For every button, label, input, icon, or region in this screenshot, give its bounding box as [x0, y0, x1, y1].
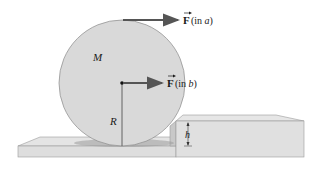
wheel-step-diagram: M R h F (in a) F (in b) [0, 0, 318, 171]
svg-text:F: F [183, 14, 190, 26]
force-a-label: F (in a) [183, 12, 213, 28]
svg-text:(in b): (in b) [175, 78, 197, 90]
svg-text:F: F [167, 77, 174, 89]
mass-label: M [92, 51, 103, 63]
step-front-face [176, 121, 304, 157]
svg-text:(in a): (in a) [191, 15, 213, 27]
step-block [170, 115, 304, 157]
step-top-face [176, 115, 304, 121]
height-label: h [185, 129, 190, 140]
floor-slab-front [18, 146, 176, 157]
radius-label: R [109, 115, 117, 127]
